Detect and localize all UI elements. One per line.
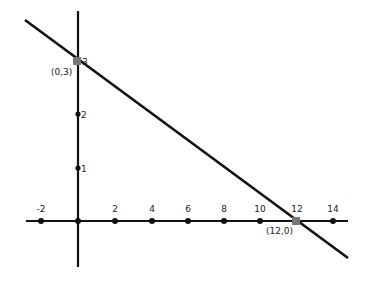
x-tick-label: 2 [112, 204, 118, 214]
x-tick-label: 10 [254, 204, 266, 214]
x-tick-label: -2 [37, 204, 46, 214]
annotation-x-intercept: (12,0) [266, 226, 293, 236]
y-tick-label: 2 [81, 110, 87, 120]
point-y-intercept [73, 57, 81, 65]
coordinate-plane: -2 2 4 6 8 10 12 14 1 2 3 (0,3) (12,0) [0, 0, 366, 283]
x-tick-label: 6 [185, 204, 191, 214]
point-x-intercept [292, 217, 300, 225]
x-tick-label: 14 [327, 204, 339, 214]
x-tick-label: 12 [291, 204, 302, 214]
x-tick-label: 8 [221, 204, 227, 214]
annotation-y-intercept: (0,3) [51, 67, 72, 77]
x-tick-label: 4 [149, 204, 155, 214]
y-tick-label: 3 [82, 57, 88, 67]
y-tick-label: 1 [81, 164, 87, 174]
